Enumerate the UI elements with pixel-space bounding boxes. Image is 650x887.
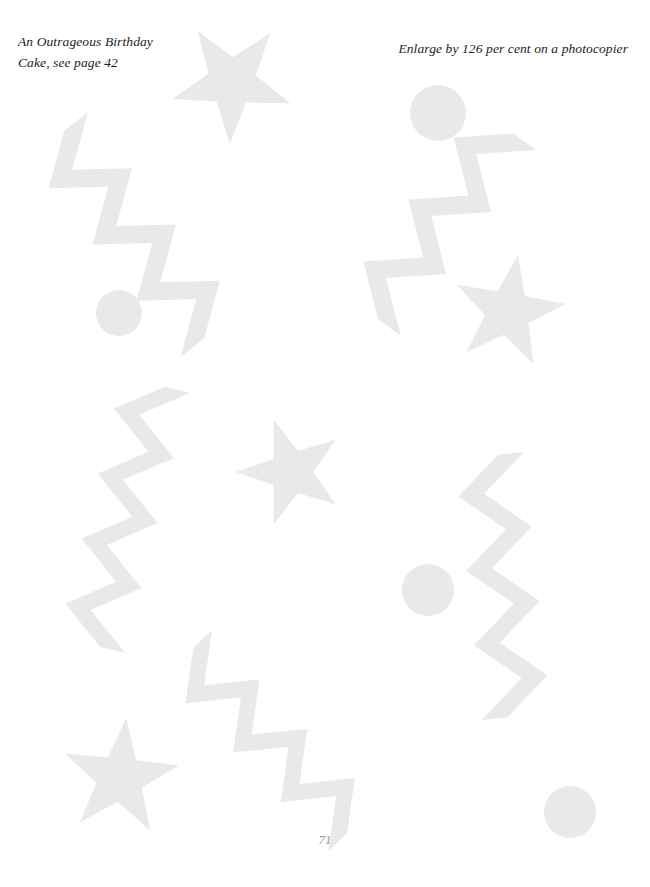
circle-upper-right [410,85,466,141]
circle-lower-right [402,564,454,616]
zigzag-middle-right [454,452,551,720]
circle-bottom-right [544,786,596,838]
template-page: An Outrageous Birthday Cake, see page 42… [0,0,650,887]
page-number: 71 [0,832,650,848]
zigzag-upper-right [341,107,536,337]
star-upper-right [446,245,573,367]
artwork-canvas [0,0,650,887]
star-bottom-left [58,712,183,832]
caption-left: An Outrageous Birthday Cake, see page 42 [18,32,153,74]
star-top-centre [171,30,293,146]
zigzag-upper-left [27,112,242,357]
caption-right: Enlarge by 126 per cent on a photocopier [398,39,628,60]
star-middle-centre [224,404,354,531]
zigzag-middle-left [57,376,190,653]
zigzag-bottom-centre [162,630,379,851]
circle-middle-left [96,290,142,336]
